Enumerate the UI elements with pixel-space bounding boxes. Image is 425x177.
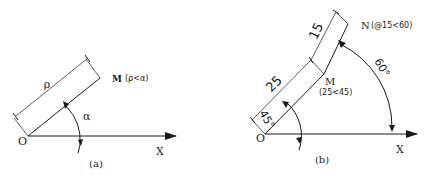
arc-arrowhead [389, 125, 395, 132]
rho-label: ρ [44, 78, 50, 91]
alpha-label: α [83, 110, 91, 123]
diagram-b: 25 15 45° 60° M (25<45) N (@15<60) O X (… [250, 10, 417, 165]
angle-arc-alpha [66, 106, 80, 145]
point-m-coords: (25<45) [319, 88, 352, 97]
point-n-coords: (@15<60) [371, 21, 412, 30]
extension-line-origin [14, 118, 28, 136]
radius-line [28, 78, 100, 136]
arc-arrowhead [78, 139, 83, 146]
x-axis-label: X [156, 145, 164, 158]
angle-60-label: 60° [371, 56, 392, 79]
dimension-tick [333, 10, 339, 14]
dimension-line-rho [16, 58, 88, 116]
arc-tail [78, 145, 80, 153]
dimension-25: 25 [263, 73, 285, 95]
caption-b: (b) [315, 154, 329, 165]
polar-coordinate-diagrams: ρ α M (ρ<α) O X (a) 25 15 45° 60° [0, 0, 425, 177]
point-n-label: N [361, 20, 370, 31]
diagram-a: ρ α M (ρ<α) O X (a) [13, 55, 176, 169]
origin-label: O [18, 135, 27, 148]
origin-label: O [256, 132, 265, 145]
point-m-label: M [112, 74, 122, 84]
angle-arc-60 [340, 44, 392, 128]
point-m-label: M [325, 76, 335, 87]
caption-a: (a) [89, 158, 103, 169]
extension-line-end [86, 59, 100, 78]
x-axis-label: X [396, 143, 404, 156]
point-m-coords: (ρ<α) [125, 74, 148, 83]
dimension-tick [13, 113, 18, 120]
dimension-15: 15 [306, 20, 327, 41]
